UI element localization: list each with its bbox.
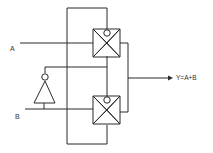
inverter-bubble-icon bbox=[42, 74, 48, 80]
transmission-gate-top bbox=[93, 29, 120, 57]
input-a-label: A bbox=[10, 45, 15, 52]
input-b-label: B bbox=[15, 113, 20, 120]
output-label: Y=A+B bbox=[176, 75, 197, 82]
transmission-gate-bottom bbox=[93, 96, 120, 124]
inverter-output-wire bbox=[45, 56, 107, 97]
output-wire bbox=[120, 43, 173, 112]
top-gate-bubble-icon bbox=[104, 30, 110, 36]
bottom-gate-bubble-icon bbox=[104, 97, 110, 103]
inverter-gate bbox=[34, 74, 55, 103]
output-arrow-icon bbox=[168, 76, 173, 81]
